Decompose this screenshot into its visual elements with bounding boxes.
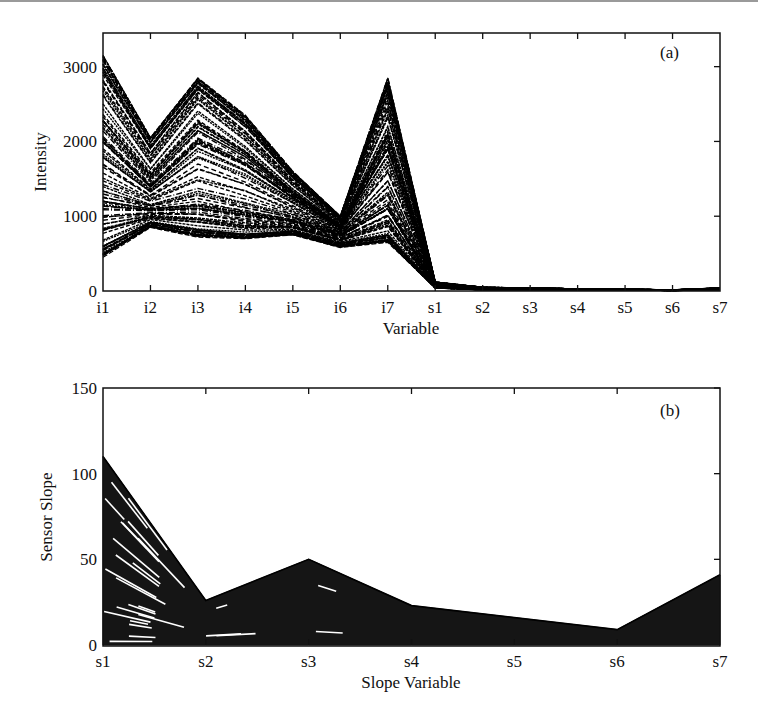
y-tick-label: 1000 (63, 207, 97, 226)
x-tick-label: s6 (610, 652, 625, 671)
figure: i1i2i3i4i5i6i7s1s2s3s4s5s6s7 01000200030… (0, 0, 758, 719)
y-tick-label: 3000 (63, 58, 97, 77)
data-sample-line (103, 156, 720, 290)
x-tick-label: s5 (618, 298, 633, 317)
panel-b-tag: (b) (660, 401, 680, 420)
x-tick-label: s5 (507, 652, 522, 671)
y-tick-label: 2000 (63, 132, 97, 151)
panel-a-tag: (a) (660, 43, 679, 62)
x-tick-label: s2 (475, 298, 490, 317)
panel-a-y-axis-title: Intensity (31, 132, 50, 192)
y-tick-label: 100 (72, 465, 98, 484)
panel-a-x-ticks: i1i2i3i4i5i6i7s1s2s3s4s5s6s7 (96, 33, 728, 317)
panel-a-x-axis-title: Variable (383, 319, 440, 338)
y-tick-label: 150 (72, 379, 98, 398)
x-tick-label: i1 (96, 298, 109, 317)
x-tick-label: s2 (198, 652, 213, 671)
x-tick-label: s4 (404, 652, 420, 671)
panel-b-data-lines (103, 457, 720, 646)
panel-a-data-lines (103, 55, 720, 290)
x-tick-label: s7 (712, 652, 728, 671)
x-tick-label: i7 (381, 298, 395, 317)
data-sample-line (103, 141, 720, 290)
x-tick-label: s3 (301, 652, 316, 671)
x-tick-label: i3 (191, 298, 204, 317)
y-tick-label: 0 (89, 636, 98, 655)
x-tick-label: i2 (144, 298, 157, 317)
panel-a-intensity-plot: i1i2i3i4i5i6i7s1s2s3s4s5s6s7 01000200030… (31, 33, 728, 338)
x-tick-label: i4 (239, 298, 253, 317)
x-tick-label: s4 (570, 298, 586, 317)
panel-b-x-axis-title: Slope Variable (361, 673, 460, 692)
y-tick-label: 0 (89, 282, 98, 301)
data-sample-line (103, 151, 720, 290)
x-tick-label: s1 (95, 652, 110, 671)
y-tick-label: 50 (80, 550, 97, 569)
panel-b-y-axis-title: Sensor Slope (37, 472, 56, 561)
x-tick-label: s1 (428, 298, 443, 317)
x-tick-label: s7 (712, 298, 728, 317)
x-tick-label: i5 (286, 298, 299, 317)
data-region-fill (103, 457, 720, 646)
x-tick-label: s3 (523, 298, 538, 317)
panel-b-sensor-slope-plot: s1s2s3s4s5s6s7 050100150 (b) Slope Varia… (37, 379, 728, 692)
x-tick-label: i6 (334, 298, 347, 317)
x-tick-label: s6 (665, 298, 680, 317)
